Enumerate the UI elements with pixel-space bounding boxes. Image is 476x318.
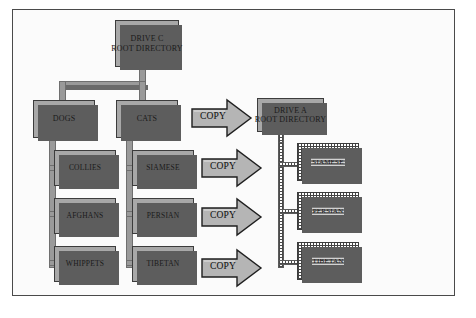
copy-arrow-2[interactable]: COPY — [201, 148, 263, 188]
node-label: SIAMESE — [146, 164, 180, 173]
node-cats[interactable]: CATS — [116, 100, 178, 138]
connector-drivea-stub-persian — [278, 209, 298, 214]
node-label-line2: ROOT DIRECTORY — [255, 115, 327, 124]
node-whippets[interactable]: WHIPPETS — [54, 246, 116, 282]
copy-label: COPY — [193, 111, 233, 121]
copy-arrow-4[interactable]: COPY — [201, 248, 263, 288]
node-drive-c-root[interactable]: DRIVE C ROOT DIRECTORY — [115, 20, 179, 67]
connector-drivea-stub-siamese — [278, 162, 298, 167]
node-label: DOGS — [53, 114, 76, 123]
node-collies[interactable]: COLLIES — [54, 150, 116, 186]
node-label: PERSIAN — [147, 212, 180, 221]
node-afghans[interactable]: AFGHANS — [54, 198, 116, 234]
node-siamese-source[interactable]: SIAMESE — [132, 150, 194, 186]
node-label: TIBETAN — [313, 257, 344, 265]
node-tibetan-source[interactable]: TIBETAN — [132, 246, 194, 282]
node-label-line1: DRIVE A — [255, 106, 327, 115]
node-label: TIBETAN — [147, 260, 180, 269]
diagram-canvas: DRIVE C ROOT DIRECTORY DOGS CATS COLLIES… — [0, 0, 476, 318]
node-drive-a-root[interactable]: DRIVE A ROOT DIRECTORY — [257, 98, 324, 132]
connector-drivea-stub-tibetan — [278, 260, 298, 265]
node-persian-source[interactable]: PERSIAN — [132, 198, 194, 234]
node-label: PERSIAN — [313, 207, 344, 215]
node-siamese-dest[interactable]: SIAMESE — [297, 143, 359, 181]
diagram-frame: DRIVE C ROOT DIRECTORY DOGS CATS COLLIES… — [12, 9, 455, 296]
node-label: CATS — [137, 114, 157, 123]
node-label: SIAMESE — [312, 158, 343, 166]
node-persian-dest[interactable]: PERSIAN — [297, 192, 359, 230]
connector-drivea-spine — [278, 142, 284, 268]
copy-label: COPY — [203, 261, 243, 271]
copy-label: COPY — [203, 210, 243, 220]
connector-root-bus — [59, 81, 146, 88]
node-label-line2: ROOT DIRECTORY — [111, 44, 183, 53]
node-label: WHIPPETS — [66, 260, 104, 269]
node-dogs[interactable]: DOGS — [33, 100, 95, 138]
node-label: AFGHANS — [67, 212, 104, 221]
node-tibetan-dest[interactable]: TIBETAN — [297, 242, 359, 280]
copy-label: COPY — [203, 161, 243, 171]
copy-arrow-3[interactable]: COPY — [201, 197, 263, 237]
node-label-line1: DRIVE C — [111, 34, 183, 43]
node-label: COLLIES — [69, 164, 101, 173]
copy-arrow-1[interactable]: COPY — [191, 98, 253, 138]
